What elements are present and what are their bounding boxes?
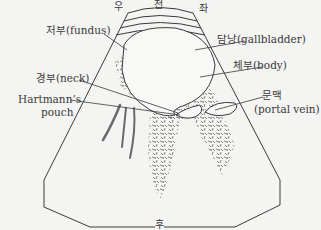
gallbladder-label: 담낭(gallbladder) [217,34,306,46]
orientation-anterior-label: 전 [154,0,163,10]
orientation-left-label: 좌 [199,3,208,14]
acoustic-shadow [103,105,135,158]
portal-vein-label-line2: (portal vein) [254,104,320,116]
orientation-posterior-label: 후 [155,219,164,230]
neck-label: 경부(neck) [36,73,89,85]
hartmann-label-line2: pouch [41,107,73,119]
fundus-label: 저부(fundus) [46,25,110,37]
hartmann-label-line1: Hartmann’s [18,94,81,106]
orientation-right-label: 우 [114,1,123,12]
portal-vein-label-line1: 문맥 [262,90,282,102]
body-label: 체부(body) [233,60,287,72]
ultrasound-diagram: 우 전 좌 후 저부(fundus) 담낭(gallbladder) 체부(bo… [0,0,321,230]
